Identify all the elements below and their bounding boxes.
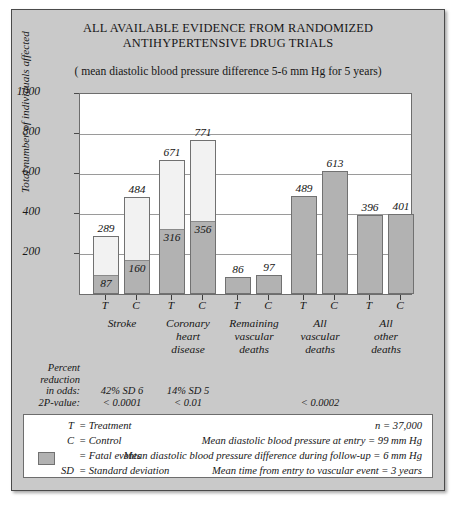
bar: 86 bbox=[225, 277, 251, 294]
bar-total-value: 489 bbox=[292, 182, 316, 194]
bar-total-value: 613 bbox=[323, 157, 347, 169]
y-axis-tick-label: 200 bbox=[0, 245, 40, 258]
study-note: Mean diastolic blood pressure difference… bbox=[124, 450, 422, 461]
percent-reduction-label-line: Percent bbox=[0, 362, 80, 374]
study-note: Mean diastolic blood pressure at entry =… bbox=[202, 435, 422, 446]
p-value: < 0.0002 bbox=[265, 397, 375, 408]
figure-panel: ALL AVAILABLE EVIDENCE FROM RANDOMIZED A… bbox=[11, 9, 445, 491]
y-axis-tick-label: 1000 bbox=[0, 85, 40, 98]
bar: 401 bbox=[388, 214, 414, 294]
chart-subtitle: ( mean diastolic blood pressure differen… bbox=[12, 65, 444, 78]
bar-fatal-segment: 316 bbox=[160, 229, 184, 293]
y-axis-tick-label: 400 bbox=[0, 205, 40, 218]
bar: 771356 bbox=[190, 140, 216, 294]
study-note: Mean time from entry to vascular event =… bbox=[212, 465, 422, 476]
x-axis-arm-label: C bbox=[255, 299, 281, 311]
x-axis-category-label: Allotherdeaths bbox=[340, 317, 432, 357]
bar-fatal-segment: 87 bbox=[94, 275, 118, 293]
bar-total-value: 289 bbox=[94, 222, 118, 234]
legend-box: T= TreatmentC= Control= Fatal eventsSD= … bbox=[23, 414, 433, 478]
legend-standard-deviation-text: = Standard deviation bbox=[79, 465, 229, 476]
bar-total-value: 401 bbox=[389, 200, 413, 212]
bar: 97 bbox=[256, 275, 282, 294]
bar-fatal-value: 87 bbox=[94, 277, 118, 289]
y-axis-tick-mark bbox=[74, 93, 79, 94]
y-axis-tick-mark bbox=[74, 253, 79, 254]
bar-fatal-value: 356 bbox=[191, 223, 215, 235]
bar: 489 bbox=[291, 196, 317, 294]
x-axis-arm-label: C bbox=[189, 299, 215, 311]
y-axis-tick-label: 800 bbox=[0, 125, 40, 138]
percent-reduction-value: 14% SD 5 bbox=[133, 385, 243, 396]
chart-title-line1: ALL AVAILABLE EVIDENCE FROM RANDOMIZED bbox=[12, 21, 444, 36]
y-axis-label: Total number of individuals affected bbox=[19, 0, 31, 277]
bar-total-value: 97 bbox=[257, 261, 281, 273]
bar-fatal-segment: 356 bbox=[191, 221, 215, 293]
bar-total-value: 484 bbox=[125, 183, 149, 195]
x-axis-arm-label: T bbox=[224, 299, 250, 311]
x-axis-arm-label: C bbox=[321, 299, 347, 311]
x-axis-arm-label: C bbox=[387, 299, 413, 311]
bar-fatal-value: 316 bbox=[160, 231, 184, 243]
p-value: < 0.01 bbox=[133, 397, 243, 408]
category-label-line: deaths bbox=[340, 343, 432, 356]
y-axis-tick-mark bbox=[74, 173, 79, 174]
bar-total-value: 771 bbox=[191, 126, 215, 138]
chart-title-line2: ANTIHYPERTENSIVE DRUG TRIALS bbox=[12, 36, 444, 51]
x-axis-arm-label: C bbox=[123, 299, 149, 311]
bar: 484160 bbox=[124, 197, 150, 294]
plot-area: 289874841606713167713568697489613396401 bbox=[79, 93, 412, 295]
legend-standard-deviation-symbol: SD bbox=[34, 465, 74, 476]
gridline bbox=[80, 134, 411, 135]
legend-control-symbol: C bbox=[34, 435, 74, 446]
x-axis-arm-label: T bbox=[92, 299, 118, 311]
bar: 671316 bbox=[159, 160, 185, 294]
x-axis-arm-label: T bbox=[290, 299, 316, 311]
x-axis-arm-label: T bbox=[158, 299, 184, 311]
fatal-events-swatch-icon bbox=[38, 452, 55, 465]
bar: 613 bbox=[322, 171, 348, 294]
study-note: n = 37,000 bbox=[375, 420, 422, 431]
y-axis-tick-label: 600 bbox=[0, 165, 40, 178]
bar-total-value: 396 bbox=[358, 201, 382, 213]
y-axis-tick-mark bbox=[74, 213, 79, 214]
chart-title: ALL AVAILABLE EVIDENCE FROM RANDOMIZED A… bbox=[12, 21, 444, 50]
bar-total-value: 86 bbox=[226, 263, 250, 275]
category-label-line: other bbox=[340, 330, 432, 343]
y-axis-tick-mark bbox=[74, 133, 79, 134]
bar: 396 bbox=[357, 215, 383, 294]
category-label-line: All bbox=[340, 317, 432, 330]
percent-reduction-label-line: reduction bbox=[0, 374, 80, 386]
legend-treatment-text: = Treatment bbox=[79, 420, 229, 431]
bar-total-value: 671 bbox=[160, 146, 184, 158]
gridline bbox=[80, 174, 411, 175]
bar-fatal-value: 160 bbox=[125, 262, 149, 274]
bar-fatal-segment: 160 bbox=[125, 260, 149, 293]
x-axis-arm-label: T bbox=[356, 299, 382, 311]
legend-treatment-symbol: T bbox=[34, 420, 74, 431]
bar: 28987 bbox=[93, 236, 119, 294]
